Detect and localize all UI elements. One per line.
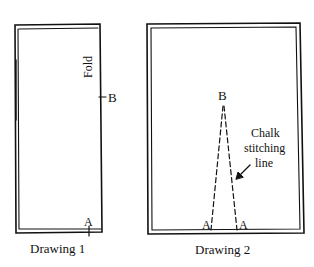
- stitch-line-left: [211, 106, 223, 230]
- point-a-right-label: A: [239, 218, 248, 232]
- sewing-diagram: Fold B A Drawing 1 B A A Chalk stitching…: [0, 0, 314, 267]
- caption-drawing-2: Drawing 2: [195, 242, 250, 257]
- drawing-1: [15, 24, 106, 236]
- stitch-line-right: [224, 106, 237, 230]
- fabric-outline-1: [15, 24, 102, 233]
- caption-drawing-1: Drawing 1: [30, 241, 85, 256]
- fold-label: Fold: [81, 56, 95, 78]
- point-b-label-2: B: [218, 88, 227, 103]
- point-b-label-1: B: [108, 90, 117, 105]
- point-a-left-label: A: [202, 218, 211, 232]
- annotation-line: line: [255, 156, 273, 170]
- drawing-2: [147, 23, 304, 234]
- point-a-label-1: A: [84, 215, 93, 229]
- annotation-stitching: stitching: [244, 141, 285, 155]
- fabric-outline-2: [147, 23, 304, 234]
- annotation-chalk: Chalk: [251, 126, 280, 140]
